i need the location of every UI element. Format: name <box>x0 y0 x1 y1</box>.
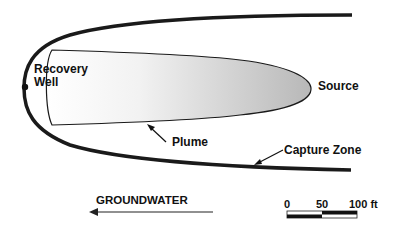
groundwater-label: GROUNDWATER <box>96 194 188 207</box>
plume-label: Plume <box>172 136 208 149</box>
recovery-well-label-line2: Well <box>34 76 88 89</box>
recovery-well-marker <box>22 84 28 90</box>
scale-bar <box>287 211 357 218</box>
capture-zone-label: Capture Zone <box>284 144 361 157</box>
capture-zone-arrow <box>254 150 283 165</box>
scale-tick-50: 50 <box>316 198 328 211</box>
source-label: Source <box>318 80 359 93</box>
plume-arrow <box>147 124 166 142</box>
groundwater-flow-arrow <box>89 208 213 216</box>
scale-tick-100ft: 100 ft <box>349 198 378 211</box>
diagram-svg <box>0 0 397 234</box>
recovery-well-label: Recovery Well <box>34 63 88 89</box>
scale-tick-0: 0 <box>284 198 290 211</box>
